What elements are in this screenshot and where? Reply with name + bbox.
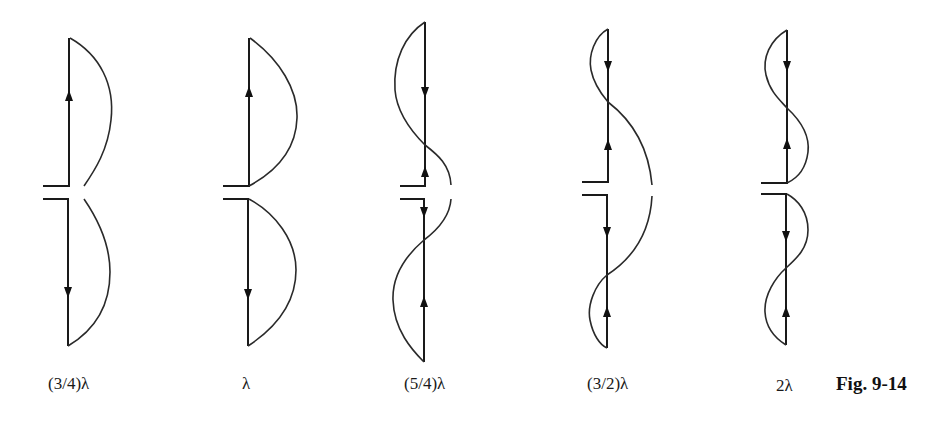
- upper-current-curve: [70, 38, 112, 186]
- arrow-down-icon: [421, 87, 429, 98]
- arrow-up-icon: [420, 296, 428, 307]
- antenna-5-4-lambda: [393, 22, 451, 362]
- antenna-3-4-lambda: [43, 38, 112, 346]
- lower-current-curve: [589, 196, 652, 348]
- antenna-diagram: [0, 0, 928, 426]
- lower-current-curve: [68, 199, 110, 346]
- upper-current-curve: [249, 38, 297, 186]
- arrow-up-icon: [604, 139, 612, 150]
- arrow-up-icon: [421, 166, 429, 177]
- upper-conductor: [582, 29, 608, 182]
- upper-conductor: [223, 38, 249, 186]
- upper-current-curve: [395, 22, 451, 185]
- arrow-up-icon: [782, 306, 790, 317]
- antenna-label: 2λ: [776, 376, 793, 396]
- antenna-3-2-lambda: [582, 29, 652, 348]
- antenna-2-lambda: [761, 30, 808, 345]
- arrow-up-icon: [245, 86, 253, 97]
- antenna-1-lambda: [223, 38, 297, 346]
- lower-current-curve: [393, 199, 451, 362]
- antenna-label: (3/4)λ: [48, 374, 89, 394]
- arrow-down-icon: [782, 231, 790, 242]
- arrow-up-icon: [65, 90, 73, 101]
- arrow-down-icon: [783, 61, 791, 72]
- arrow-down-icon: [244, 289, 252, 300]
- lower-conductor: [761, 194, 786, 345]
- antenna-label: (3/2)λ: [587, 374, 628, 394]
- lower-conductor: [223, 199, 248, 346]
- lower-conductor: [582, 195, 607, 348]
- antenna-label: (5/4)λ: [404, 374, 445, 394]
- figure-caption: Fig. 9-14: [836, 373, 907, 395]
- upper-conductor: [43, 38, 69, 186]
- upper-conductor: [761, 30, 787, 183]
- antenna-label: λ: [242, 374, 250, 394]
- arrow-down-icon: [420, 207, 428, 218]
- upper-current-curve: [590, 29, 652, 185]
- arrow-up-icon: [783, 138, 791, 149]
- arrow-down-icon: [603, 227, 611, 238]
- lower-conductor: [43, 199, 68, 346]
- lower-current-curve: [248, 199, 296, 346]
- arrow-up-icon: [603, 306, 611, 317]
- arrow-down-icon: [64, 287, 72, 298]
- arrow-down-icon: [604, 61, 612, 72]
